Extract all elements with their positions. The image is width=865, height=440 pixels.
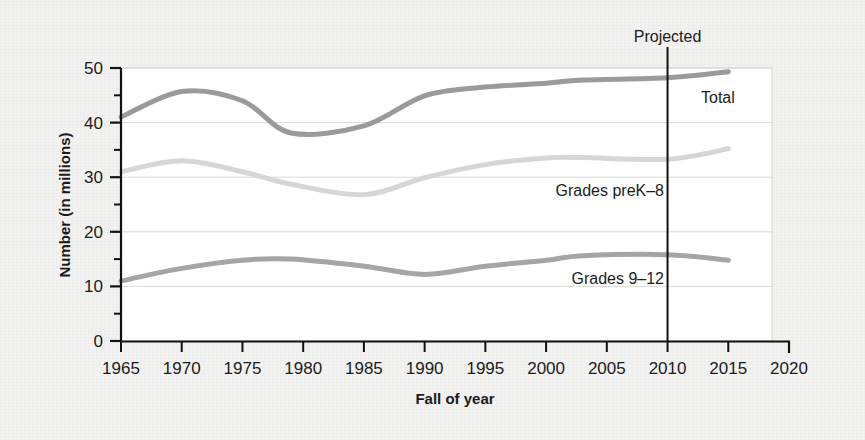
series-label-grades-9-12: Grades 9–12	[571, 270, 664, 287]
y-tick-label: 30	[84, 168, 103, 187]
y-tick-label: 40	[84, 114, 103, 133]
x-tick-label: 1965	[102, 359, 140, 378]
y-axis-tick-labels: 01020304050	[84, 59, 103, 351]
x-tick-label: 1985	[345, 359, 383, 378]
x-axis-title: Fall of year	[415, 390, 494, 407]
x-tick-label: 1980	[284, 359, 322, 378]
x-tick-label: 2005	[588, 359, 626, 378]
x-tick-label: 2000	[527, 359, 565, 378]
x-tick-label: 1975	[224, 359, 262, 378]
x-tick-label: 2010	[649, 359, 687, 378]
x-tick-label: 1990	[406, 359, 444, 378]
projected-annotation-label: Projected	[634, 28, 702, 45]
y-tick-label: 10	[84, 277, 103, 296]
x-tick-label: 2020	[770, 359, 808, 378]
x-tick-label: 1970	[163, 359, 201, 378]
x-tick-label: 1995	[466, 359, 504, 378]
plot-panel	[121, 68, 772, 341]
x-axis-tick-labels: 1965197019751980198519901995200020052010…	[102, 359, 808, 378]
series-label-grades-prek-8: Grades preK–8	[555, 182, 664, 199]
y-tick-label: 50	[84, 59, 103, 78]
x-tick-label: 2015	[709, 359, 747, 378]
chart-svg: 01020304050 1965197019751980198519901995…	[0, 0, 865, 440]
series-label-total: Total	[701, 89, 735, 106]
y-tick-label: 20	[84, 223, 103, 242]
y-tick-label: 0	[94, 332, 103, 351]
y-axis-title: Number (in millions)	[56, 132, 73, 277]
line-chart-figure: 01020304050 1965197019751980198519901995…	[0, 0, 865, 440]
x-axis-ticks	[121, 341, 789, 352]
